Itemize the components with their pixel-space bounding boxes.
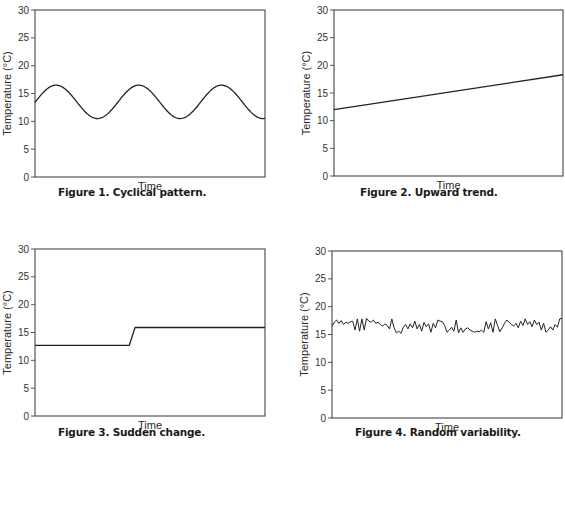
caption-fig1: Figure 1. Cyclical pattern. bbox=[58, 186, 206, 198]
y-axis-title: Temperature (°C) bbox=[298, 292, 310, 376]
data-line bbox=[332, 318, 562, 333]
y-tick-label: 15 bbox=[315, 329, 327, 340]
y-tick-label: 25 bbox=[315, 273, 327, 284]
plot-frame bbox=[332, 251, 562, 418]
caption-fig3: Figure 3. Sudden change. bbox=[58, 426, 205, 438]
y-tick-label: 5 bbox=[320, 385, 326, 396]
y-tick-label: 10 bbox=[315, 357, 327, 368]
y-tick-label: 30 bbox=[315, 246, 327, 257]
y-tick-label: 20 bbox=[315, 301, 327, 312]
caption-fig2: Figure 2. Upward trend. bbox=[360, 186, 498, 198]
caption-fig4: Figure 4. Random variability. bbox=[355, 426, 521, 438]
y-tick-label: 0 bbox=[320, 413, 326, 424]
